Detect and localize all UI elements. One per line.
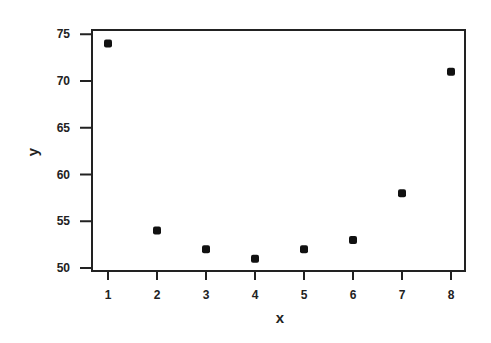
x-tick-label: 4 [252,288,259,302]
x-tick-label: 1 [105,288,112,302]
y-axis-title: y [24,147,41,156]
x-tick-label: 2 [154,288,161,302]
data-point [153,227,161,235]
x-axis: 12345678 [105,271,455,302]
x-axis-title: x [276,309,285,326]
x-tick-label: 6 [350,288,357,302]
y-axis: 505560657075 [57,27,92,275]
y-tick-label: 70 [57,74,71,88]
y-tick-label: 50 [57,261,71,275]
data-point [104,40,112,48]
x-tick-label: 3 [203,288,210,302]
scatter-plot: 505560657075 12345678 x y [0,0,491,343]
data-point [398,189,406,197]
x-tick-label: 8 [448,288,455,302]
data-point [349,236,357,244]
plot-frame [92,30,465,271]
data-point [251,255,259,263]
data-point [300,245,308,253]
data-point [447,68,455,76]
y-tick-label: 55 [57,214,71,228]
y-tick-label: 65 [57,121,71,135]
y-tick-label: 75 [57,27,71,41]
data-point [202,245,210,253]
data-points [104,40,455,263]
y-tick-label: 60 [57,168,71,182]
x-tick-label: 5 [301,288,308,302]
x-tick-label: 7 [399,288,406,302]
